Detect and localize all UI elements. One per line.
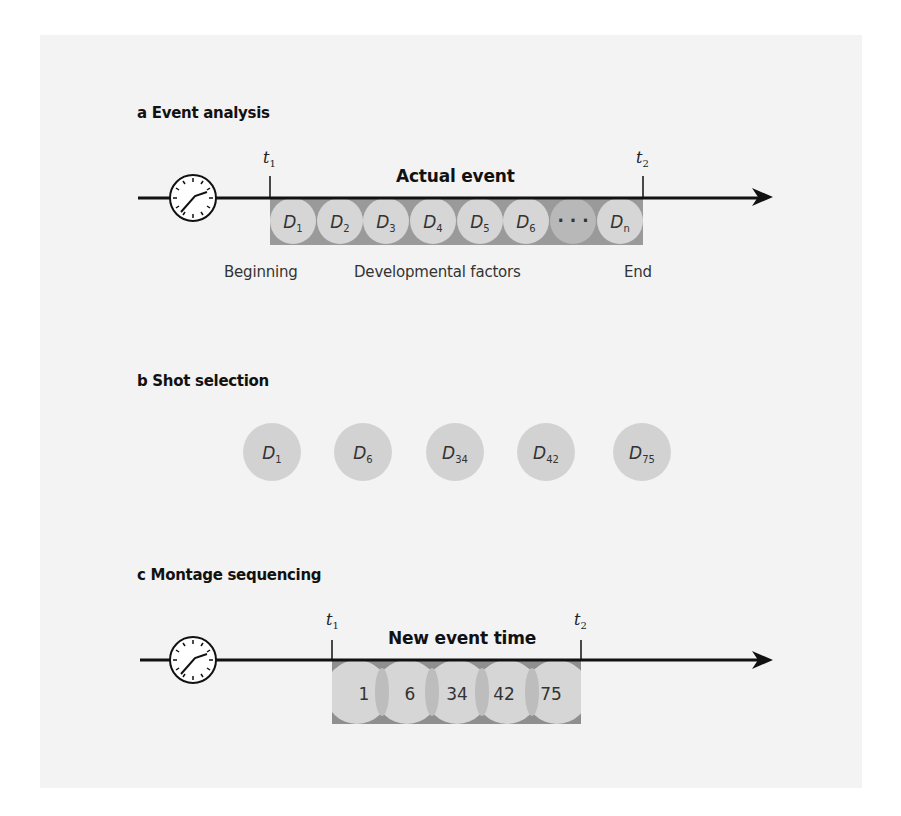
sequence-42: 42: [493, 684, 515, 704]
sequence-1: 1: [359, 684, 370, 704]
sequence-75: 75: [540, 684, 562, 704]
clock-icon: [170, 637, 216, 683]
sequence-6: 6: [405, 684, 416, 704]
sequence-34: 34: [446, 684, 468, 704]
